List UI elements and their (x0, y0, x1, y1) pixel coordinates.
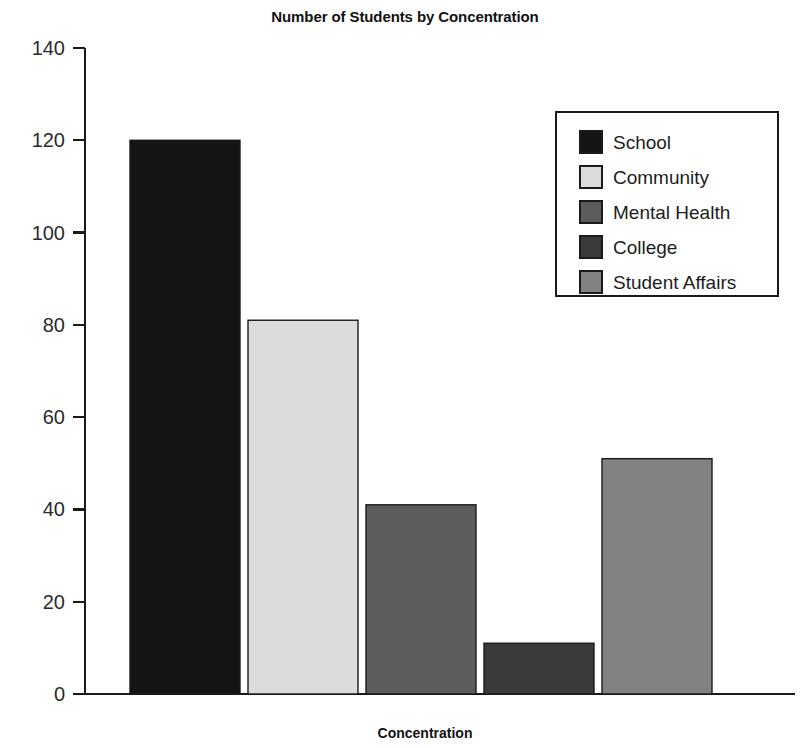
bar (130, 140, 240, 694)
bar-chart: Number of Students by Concentration 0204… (0, 0, 811, 748)
chart-container: Number of Students by Concentration 0204… (0, 0, 811, 748)
y-axis-tick-label: 60 (43, 406, 65, 428)
legend: SchoolCommunityMental HealthCollegeStude… (556, 112, 778, 296)
bar (366, 505, 476, 694)
legend-swatch (580, 166, 602, 188)
y-axis-tick-label: 0 (54, 683, 65, 705)
y-axis-tick-label: 120 (32, 129, 65, 151)
chart-title: Number of Students by Concentration (271, 8, 538, 25)
bar (248, 320, 358, 694)
bar (602, 459, 712, 694)
y-axis-tick-label: 100 (32, 222, 65, 244)
legend-label: School (613, 132, 671, 153)
legend-label: Student Affairs (613, 272, 736, 293)
y-axis-tick-label: 80 (43, 314, 65, 336)
x-axis-label: Concentration (378, 725, 473, 741)
legend-label: Community (613, 167, 710, 188)
y-axis-tick-label: 140 (32, 37, 65, 59)
legend-swatch (580, 236, 602, 258)
bar (484, 643, 594, 694)
legend-swatch (580, 201, 602, 223)
y-axis-tick-label: 20 (43, 591, 65, 613)
legend-swatch (580, 271, 602, 293)
y-axis-tick-label: 40 (43, 498, 65, 520)
legend-swatch (580, 131, 602, 153)
legend-label: Mental Health (613, 202, 730, 223)
legend-label: College (613, 237, 677, 258)
